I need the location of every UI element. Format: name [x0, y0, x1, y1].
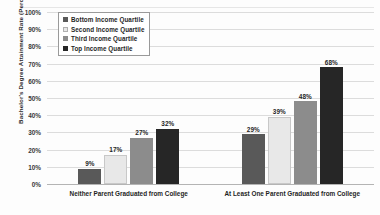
y-axis-tick-label: 60%: [28, 77, 41, 84]
y-axis-tick-labels: 0%10%20%30%40%50%60%70%80%90%100%: [0, 12, 44, 184]
y-axis-tick-label: 100%: [25, 9, 41, 16]
legend-label: Second Income Quartile: [71, 26, 144, 33]
bar[interactable]: [268, 117, 291, 184]
bar-value-label: 32%: [156, 120, 179, 127]
legend-swatch-icon: [63, 27, 68, 32]
x-axis-category-label: Neither Parent Graduated from College: [70, 190, 188, 197]
bar-slot: 32%: [156, 12, 179, 184]
bar-value-label: 17%: [104, 146, 127, 153]
legend-item[interactable]: Bottom Income Quartile: [63, 16, 144, 23]
x-axis-category-label: At Least One Parent Graduated from Colle…: [224, 190, 360, 197]
y-axis-tick-label: 0%: [32, 181, 41, 188]
y-axis-tick-label: 90%: [28, 26, 41, 33]
top-rule-divider: [22, 7, 374, 8]
x-axis-category-labels: Neither Parent Graduated from CollegeAt …: [47, 190, 374, 208]
y-axis-tick-label: 10%: [28, 163, 41, 170]
y-axis-tick-label: 80%: [28, 43, 41, 50]
bar-slot: 68%: [320, 12, 343, 184]
bar-value-label: 48%: [294, 93, 317, 100]
legend-item[interactable]: Third Income Quartile: [63, 35, 144, 42]
y-axis-tick-label: 50%: [28, 95, 41, 102]
legend-item[interactable]: Top Income Quartile: [63, 45, 144, 52]
bar-slot: 48%: [294, 12, 317, 184]
bar-value-label: 68%: [320, 59, 343, 66]
bar-value-label: 39%: [268, 108, 291, 115]
bar-value-label: 29%: [242, 126, 265, 133]
bar-group: 29%39%48%68%: [211, 12, 375, 184]
y-axis-tick-label: 30%: [28, 129, 41, 136]
bar-value-label: 9%: [78, 160, 101, 167]
bar-value-label: 27%: [130, 129, 153, 136]
bar[interactable]: [320, 67, 343, 184]
legend-label: Bottom Income Quartile: [71, 16, 144, 23]
legend-label: Top Income Quartile: [71, 45, 133, 52]
legend-item[interactable]: Second Income Quartile: [63, 26, 144, 33]
bar[interactable]: [156, 129, 179, 184]
gridline: [47, 184, 374, 185]
bar-chart: Bachelor's Degree Attainment Rate (Perce…: [0, 0, 380, 215]
bar-slot: 29%: [242, 12, 265, 184]
bar[interactable]: [78, 169, 101, 184]
bar-group-bars: 29%39%48%68%: [211, 12, 375, 184]
bar[interactable]: [242, 134, 265, 184]
bar[interactable]: [104, 155, 127, 184]
legend-swatch-icon: [63, 36, 68, 41]
bar[interactable]: [294, 101, 317, 184]
y-axis-tick-label: 40%: [28, 112, 41, 119]
y-axis-tick-label: 20%: [28, 146, 41, 153]
bar-slot: 39%: [268, 12, 291, 184]
legend: Bottom Income QuartileSecond Income Quar…: [58, 12, 150, 56]
y-axis-tick-label: 70%: [28, 60, 41, 67]
legend-label: Third Income Quartile: [71, 35, 137, 42]
bar[interactable]: [130, 138, 153, 184]
legend-swatch-icon: [63, 46, 68, 51]
legend-swatch-icon: [63, 17, 68, 22]
